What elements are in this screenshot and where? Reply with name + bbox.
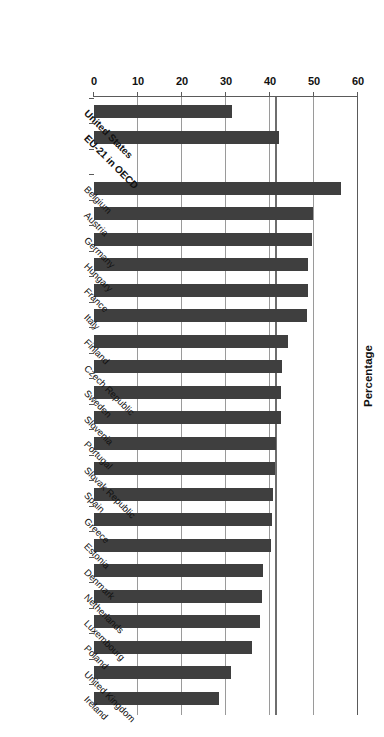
category-tick xyxy=(89,455,94,456)
bar-denmark[interactable] xyxy=(94,564,263,577)
x-axis-line xyxy=(94,96,358,97)
axis-title-percentage: Percentage xyxy=(362,345,374,407)
x-tick-0 xyxy=(93,92,94,97)
x-tick-label-40: 40 xyxy=(250,75,290,87)
bar-slovenia[interactable] xyxy=(94,411,281,424)
bar-czech-republic[interactable] xyxy=(94,360,282,373)
bar-portugal[interactable] xyxy=(94,437,276,450)
category-tick xyxy=(89,659,94,660)
category-tick xyxy=(89,124,94,125)
category-tick xyxy=(89,200,94,201)
category-tick xyxy=(89,328,94,329)
y-axis-line xyxy=(357,96,358,715)
category-tick xyxy=(89,685,94,686)
x-tick-60 xyxy=(357,92,358,97)
bar-france[interactable] xyxy=(94,284,308,297)
category-tick xyxy=(89,379,94,380)
bar-netherlands[interactable] xyxy=(94,590,262,603)
category-tick xyxy=(89,557,94,558)
category-tick xyxy=(89,634,94,635)
x-tick-40 xyxy=(269,92,270,97)
category-tick xyxy=(89,277,94,278)
x-tick-label-10: 10 xyxy=(118,75,158,87)
bar-united-kingdom[interactable] xyxy=(94,666,231,679)
x-tick-label-60: 60 xyxy=(338,75,378,87)
x-tick-label-30: 30 xyxy=(206,75,246,87)
category-tick xyxy=(89,251,94,252)
category-tick xyxy=(89,583,94,584)
category-tick xyxy=(89,608,94,609)
bar-estonia[interactable] xyxy=(94,539,271,552)
chart-canvas: 60 50 40 30 20 10 0 Percentage IrelandUn… xyxy=(0,0,384,737)
x-tick-50 xyxy=(313,92,314,97)
category-tick xyxy=(89,430,94,431)
category-tick xyxy=(89,532,94,533)
x-tick-20 xyxy=(181,92,182,97)
bar-greece[interactable] xyxy=(94,513,272,526)
x-tick-label-50: 50 xyxy=(294,75,334,87)
category-tick xyxy=(89,404,94,405)
category-tick xyxy=(89,506,94,507)
x-tick-30 xyxy=(225,92,226,97)
x-tick-label-0: 0 xyxy=(74,75,114,87)
x-tick-label-20: 20 xyxy=(162,75,202,87)
category-tick xyxy=(89,226,94,227)
bar-austria[interactable] xyxy=(94,207,313,220)
bar-finland[interactable] xyxy=(94,335,288,348)
bar-united-states[interactable] xyxy=(94,105,232,118)
bar-hungary[interactable] xyxy=(94,258,308,271)
bar-germany[interactable] xyxy=(94,233,312,246)
category-tick xyxy=(89,98,94,99)
category-tick xyxy=(89,149,94,150)
x-tick-10 xyxy=(137,92,138,97)
category-tick xyxy=(89,481,94,482)
bar-italy[interactable] xyxy=(94,309,307,322)
category-tick xyxy=(89,302,94,303)
category-tick xyxy=(89,353,94,354)
bar-slovak-republic[interactable] xyxy=(94,462,275,475)
category-tick xyxy=(89,175,94,176)
